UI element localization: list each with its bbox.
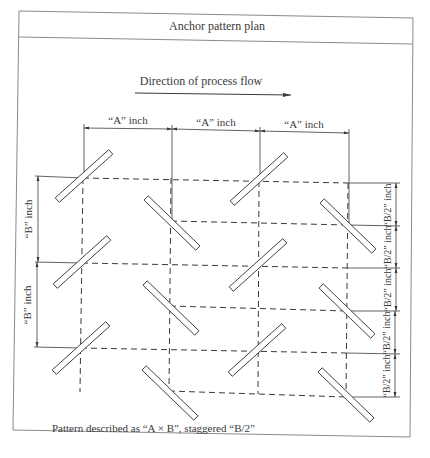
- anchor-icon: [230, 153, 288, 206]
- figure-title: Anchor pattern plan: [169, 19, 265, 33]
- dimension-b-half-label-1: “B/2” inch: [382, 183, 393, 226]
- dimension-a-label-1: “A” inch: [108, 114, 148, 126]
- anchor-column-4: [318, 199, 376, 422]
- dimension-b-half: [395, 183, 396, 397]
- dimension-b: [37, 176, 38, 347]
- figure-caption: Pattern described as “A × B”, staggered …: [52, 422, 255, 434]
- anchor-grid-dashed: [80, 178, 348, 397]
- dimension-b-half-label-2: “B/2” inch: [382, 225, 393, 268]
- dimension-b-half-label-5: “B/2” inch: [381, 354, 392, 397]
- flow-direction-label: Direction of process flow: [140, 74, 263, 88]
- anchor-icon: [143, 281, 199, 335]
- anchor-icon: [142, 366, 198, 420]
- dimension-b-label-1: “B” inch: [22, 199, 34, 238]
- title-divider: [19, 37, 412, 44]
- dimension-b-half-label-3: “B/2” inch: [382, 268, 393, 311]
- anchor-pattern-diagram: Anchor pattern plan Direction of process…: [0, 0, 430, 458]
- anchor-icon: [228, 324, 286, 377]
- anchor-icon: [229, 239, 287, 292]
- dimension-a-label-3: “A” inch: [284, 118, 324, 130]
- flow-direction-arrow-icon: [135, 93, 291, 95]
- dimension-a-label-2: “A” inch: [196, 116, 236, 128]
- dimension-b-half-label-4: “B/2” inch: [381, 311, 392, 354]
- dimension-a: [84, 124, 349, 224]
- dimension-b-label-2: “B” inch: [21, 285, 33, 324]
